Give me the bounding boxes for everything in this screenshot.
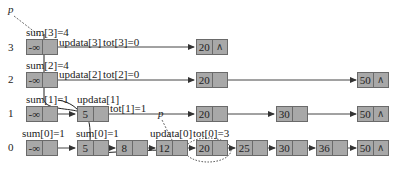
level-0-label: 0 [8,142,14,153]
tot-3-label: tot[3]=0 [103,37,139,48]
node-l3-head: -∞ [26,39,58,55]
node-l0-30: 30 [276,140,308,156]
node-l3-20: 20∧ [196,39,228,55]
node-l2-head: -∞ [26,72,58,88]
node-l0-head: -∞ [26,140,58,156]
tot-2-label: tot[2]=0 [103,69,139,80]
update-3-label: updata[3] [59,37,101,48]
skip-list-diagram: p p 3 sum[3]=4 updata[3] tot[3]=0 -∞ 20∧… [0,0,402,172]
pointer-p-bottom: p [158,108,164,119]
node-l0-36: 36 [316,140,348,156]
node-l1-head: -∞ [26,106,58,122]
update-2-label: updata[2] [59,69,101,80]
tot-0-label: tot[0]=3 [193,128,229,139]
pointer-p-top: p [8,4,14,15]
tot-1-label: tot[1]=1 [110,103,146,114]
node-l1-50: 50∧ [357,106,389,122]
node-l2-50: 50∧ [357,72,389,88]
sum-0-label-2: sum[0]=1 [76,128,119,139]
update-0-label: updata[0] [150,128,192,139]
node-l2-20: 20 [196,72,228,88]
node-l0-8: 8 [116,140,148,156]
node-l0-25: 25 [236,140,268,156]
node-l0-12: 12 [156,140,188,156]
node-l0-50: 50∧ [357,140,389,156]
level-2-label: 2 [8,74,14,85]
level-1-label: 1 [8,108,14,119]
node-l0-5: 5 [77,140,109,156]
level-3-label: 3 [8,42,14,53]
sum-1-label: sum[1]=1 [26,94,69,105]
node-l1-20: 20 [196,106,228,122]
sum-0-label: sum[0]=1 [22,128,65,139]
node-l0-20: 20 [196,140,228,156]
node-l1-30: 30 [276,106,308,122]
node-l1-5: 5 [77,106,109,122]
